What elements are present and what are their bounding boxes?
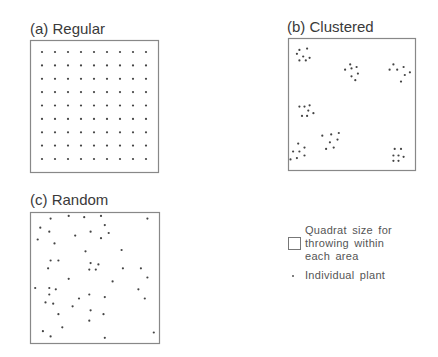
plant-dot (119, 158, 121, 160)
plant-dot (54, 64, 56, 66)
plant-dot (132, 64, 134, 66)
plant-dot (93, 118, 95, 120)
plant-dot (305, 59, 307, 61)
plant-dot (67, 158, 69, 160)
plant-dot (100, 215, 102, 217)
plant-dot (57, 259, 59, 261)
plant-dot (306, 115, 308, 117)
plant-dot (404, 74, 406, 76)
plant-dot (67, 51, 69, 53)
plant-dot (298, 150, 300, 152)
plant-dot (330, 133, 332, 135)
plant-dot (41, 91, 43, 93)
plant-dot (349, 63, 351, 65)
plant-dot (333, 147, 335, 149)
plant-dot (298, 59, 300, 61)
plant-dot (67, 64, 69, 66)
plant-dot (57, 313, 59, 315)
plant-dot (95, 269, 97, 271)
plant-dot (67, 91, 69, 93)
plant-dot (397, 154, 399, 156)
plant-dot (145, 51, 147, 53)
plant-dot (80, 78, 82, 80)
plant-dot (54, 78, 56, 80)
plant-dot (392, 63, 394, 65)
legend-quadrat-line: each area (305, 250, 392, 263)
plant-dot (88, 320, 90, 322)
plant-dot (400, 81, 402, 83)
plant-dot (67, 104, 69, 106)
plant-dot (106, 91, 108, 93)
plant-dot (119, 131, 121, 133)
plant-dot (67, 131, 69, 133)
plant-dot (41, 145, 43, 147)
plant-dot (392, 160, 394, 162)
plant-dot (90, 309, 92, 311)
plant-dot (403, 156, 405, 158)
plant-dot (50, 259, 52, 261)
plant-dot (37, 238, 39, 240)
plant-dot (67, 78, 69, 80)
plant-dot (145, 145, 147, 147)
legend-plant-label: Individual plant (305, 269, 385, 282)
plant-dot (145, 91, 147, 93)
plant-dot (104, 337, 106, 339)
plant-dot (132, 145, 134, 147)
plant-dot (289, 158, 291, 160)
plant-dot (144, 297, 146, 299)
plant-dot (74, 235, 76, 237)
plant-dot (67, 118, 69, 120)
individual-plant-icon (292, 275, 294, 277)
plant-dot (292, 150, 294, 152)
plant-dot (132, 131, 134, 133)
plant-dot (93, 51, 95, 53)
legend-quadrat-line: Quadrat size for (305, 224, 392, 237)
plant-dot (54, 158, 56, 160)
plant-dot (145, 104, 147, 106)
plant-dot (357, 73, 359, 75)
plant-dot (122, 267, 124, 269)
plant-dot (41, 51, 43, 53)
plant-dot (93, 158, 95, 160)
panel-frame-regular (31, 41, 159, 173)
figure-canvas (0, 0, 438, 357)
plant-dot (400, 148, 402, 150)
legend-quadrat-line: throwing within (305, 237, 392, 250)
plant-dot (309, 104, 311, 106)
plant-dot (306, 48, 308, 50)
plant-dot (119, 118, 121, 120)
plant-dot (132, 104, 134, 106)
plant-dot (53, 242, 55, 244)
plant-dot (350, 67, 352, 69)
plant-dot (132, 78, 134, 80)
plant-dot (119, 51, 121, 53)
regular-plants (41, 51, 147, 160)
plant-dot (145, 64, 147, 66)
plant-dot (90, 262, 92, 264)
plant-dot (44, 301, 46, 303)
plant-dot (137, 288, 139, 290)
plant-dot (106, 158, 108, 160)
random-plants (34, 215, 155, 339)
plant-dot (78, 297, 80, 299)
plant-dot (338, 132, 340, 134)
plant-dot (106, 104, 108, 106)
plant-dot (48, 231, 50, 233)
plant-dot (41, 104, 43, 106)
plant-dot (72, 305, 74, 307)
plant-dot (132, 51, 134, 53)
plant-dot (354, 79, 356, 81)
plant-dot (106, 131, 108, 133)
panel-frame-clustered (289, 39, 416, 171)
quadrat-size-icon (288, 237, 301, 250)
plant-dot (50, 335, 52, 337)
plant-dot (119, 64, 121, 66)
plant-dot (140, 267, 142, 269)
plant-dot (48, 287, 50, 289)
plant-dot (396, 69, 398, 71)
plant-dot (397, 160, 399, 162)
plant-dot (97, 263, 99, 265)
plant-dot (298, 49, 300, 51)
plant-dot (356, 66, 358, 68)
plant-dot (54, 131, 56, 133)
